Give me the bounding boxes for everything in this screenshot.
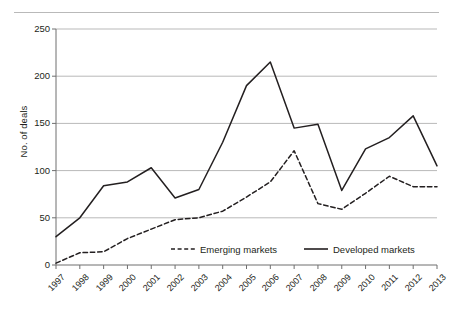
legend-swatch-dashed — [170, 244, 196, 254]
clipped-source-text — [16, 304, 316, 312]
legend-swatch-solid — [303, 244, 329, 254]
legend-item-developed-markets: Developed markets — [303, 243, 415, 255]
y-axis-tick-label: 150 — [20, 117, 50, 128]
y-axis-title: No. of deals — [18, 87, 29, 177]
series-line-developed-markets — [56, 62, 437, 237]
legend-label-emerging-markets: Emerging markets — [200, 244, 277, 255]
figure-container: No. of deals 050100150200250 19971998199… — [0, 0, 453, 313]
y-axis-tick-label: 0 — [20, 259, 50, 270]
line-chart-plot — [0, 0, 453, 313]
y-axis-tick-label: 200 — [20, 70, 50, 81]
y-axis-tick-label: 50 — [20, 212, 50, 223]
y-axis-tick-label: 100 — [20, 165, 50, 176]
y-axis-tick-label: 250 — [20, 23, 50, 34]
legend-item-emerging-markets: Emerging markets — [170, 243, 277, 255]
legend-label-developed-markets: Developed markets — [333, 244, 415, 255]
